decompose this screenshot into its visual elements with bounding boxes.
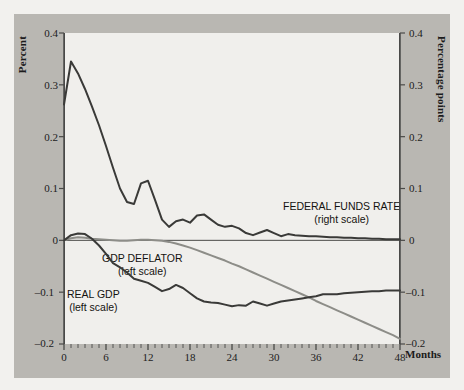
series-line-federal-funds bbox=[64, 62, 400, 240]
series-line-gdp-deflator bbox=[64, 237, 400, 339]
chart-graphic bbox=[0, 0, 464, 390]
axis-ticks bbox=[59, 33, 405, 350]
figure-canvas: Percent Percentage points 0.4 0.3 0.2 0.… bbox=[0, 0, 464, 390]
series-line-real-gdp bbox=[64, 234, 400, 307]
